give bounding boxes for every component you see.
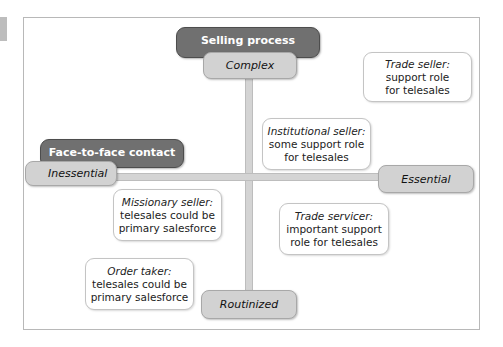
essential-label: Essential <box>378 165 474 193</box>
trade-seller-box: Trade seller: support role for telesales <box>363 52 472 102</box>
order-taker-box: Order taker: telesales could be primary … <box>85 258 194 310</box>
routinized-label: Routinized <box>201 290 297 319</box>
box-line: telesales could be <box>114 209 221 222</box>
horizontal-axis <box>110 173 385 181</box>
institutional-seller-box: Institutional seller: some support role … <box>262 118 371 170</box>
inessential-label: Inessential <box>25 161 117 186</box>
box-line: for telesales <box>263 151 370 164</box>
box-line: important support <box>280 223 388 236</box>
box-line: primary salesforce <box>114 222 221 235</box>
box-title: Trade seller: <box>364 58 471 71</box>
missionary-seller-box: Missionary seller: telesales could be pr… <box>113 189 222 241</box>
box-line: role for telesales <box>280 236 388 249</box>
box-title: Missionary seller: <box>114 196 221 209</box>
box-line: primary salesforce <box>86 291 193 304</box>
box-title: Institutional seller: <box>263 125 370 138</box>
vertical-axis <box>245 76 253 304</box>
box-line: some support role <box>263 138 370 151</box>
page-side-tab <box>0 17 7 41</box>
complex-label: Complex <box>203 52 297 79</box>
box-title: Trade servicer: <box>280 210 388 223</box>
box-line: support role <box>364 71 471 84</box>
box-line: telesales could be <box>86 278 193 291</box>
trade-servicer-box: Trade servicer: important support role f… <box>279 203 389 255</box>
box-title: Order taker: <box>86 265 193 278</box>
box-line: for telesales <box>364 84 471 97</box>
